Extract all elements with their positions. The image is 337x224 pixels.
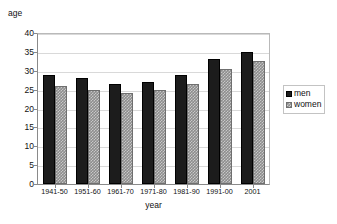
bar-women — [88, 90, 100, 184]
y-axis-tick-label: 15 — [4, 123, 34, 132]
y-axis-tick-mark — [34, 52, 37, 53]
x-axis-tick-mark — [154, 185, 155, 188]
x-axis-tick-label: 1971-80 — [140, 187, 166, 196]
y-axis-tick-label: 20 — [4, 104, 34, 113]
y-axis-tick-label: 40 — [4, 29, 34, 38]
x-axis-tick-label: 1951-60 — [74, 187, 100, 196]
y-axis-tick-mark — [34, 90, 37, 91]
legend: menwomen — [283, 85, 325, 114]
x-axis-tick-mark — [88, 185, 89, 188]
y-axis-tick-label: 5 — [4, 161, 34, 170]
bar-group — [236, 33, 269, 184]
legend-label: men — [294, 89, 311, 98]
bar-group — [137, 33, 170, 184]
bar-men — [208, 59, 220, 184]
bar-men — [76, 78, 88, 184]
x-axis-ticks: 1941-501951-601961-701971-801981-901991-… — [38, 187, 269, 199]
legend-swatch-icon — [286, 91, 292, 97]
y-axis-title: age — [8, 8, 22, 18]
bar-group — [71, 33, 104, 184]
y-axis-tick-label: 30 — [4, 67, 34, 76]
y-axis-tick-mark — [34, 184, 37, 185]
bar-women — [121, 93, 133, 184]
x-axis-title: year — [38, 200, 269, 210]
bar-men — [43, 75, 55, 184]
x-axis-tick-mark — [187, 185, 188, 188]
bars-layer — [38, 33, 269, 184]
bar-women — [154, 90, 166, 184]
x-axis-tick-label: 1961-70 — [107, 187, 133, 196]
bar-men — [241, 52, 253, 184]
x-axis-tick-mark — [253, 185, 254, 188]
y-axis-tick-mark — [34, 165, 37, 166]
y-axis-tick-mark — [34, 127, 37, 128]
legend-item-women: women — [286, 99, 321, 110]
bar-men — [142, 82, 154, 184]
bar-group — [104, 33, 137, 184]
bar-group — [170, 33, 203, 184]
legend-item-men: men — [286, 88, 321, 99]
x-axis-tick-mark — [220, 185, 221, 188]
y-axis-tick-mark — [34, 33, 37, 34]
bar-women — [55, 86, 67, 184]
y-axis-tick-label: 35 — [4, 48, 34, 57]
x-axis-tick-mark — [121, 185, 122, 188]
bar-men — [175, 75, 187, 184]
bar-women — [220, 69, 232, 184]
y-axis-tick-mark — [34, 109, 37, 110]
bar-women — [253, 61, 265, 184]
bar-chart: age 0510152025303540 1941-501951-601961-… — [0, 0, 337, 224]
x-axis-tick-label: 1941-50 — [41, 187, 67, 196]
legend-label: women — [294, 100, 321, 109]
bar-men — [109, 84, 121, 184]
y-axis-tick-mark — [34, 71, 37, 72]
bar-group — [38, 33, 71, 184]
y-axis-ticks: 0510152025303540 — [0, 33, 34, 185]
y-axis-tick-label: 25 — [4, 85, 34, 94]
x-axis-tick-label: 1981-90 — [173, 187, 199, 196]
x-axis-tick-mark — [55, 185, 56, 188]
x-axis-tick-label: 2001 — [245, 187, 261, 196]
legend-swatch-icon — [286, 102, 292, 108]
y-axis-tick-mark — [34, 146, 37, 147]
bar-women — [187, 84, 199, 184]
y-axis-tick-label: 10 — [4, 142, 34, 151]
y-axis-tick-label: 0 — [4, 180, 34, 189]
x-axis-tick-label: 1991-00 — [206, 187, 232, 196]
bar-group — [203, 33, 236, 184]
